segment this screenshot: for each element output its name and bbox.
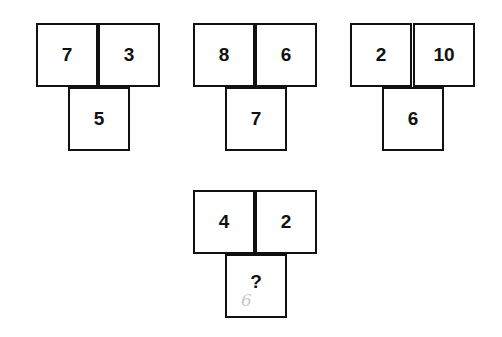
box-top-left: 7 xyxy=(36,23,98,87)
box-top-left: 4 xyxy=(193,190,255,254)
box-bottom: 5 xyxy=(68,87,130,151)
box-top-right: 3 xyxy=(98,23,160,87)
answer-box: ? 6 xyxy=(225,254,287,318)
handwritten-answer: 6 xyxy=(241,290,252,310)
box-top-right: 10 xyxy=(413,23,475,87)
box-top-left: 8 xyxy=(193,23,255,87)
box-top-right: 6 xyxy=(255,23,317,87)
box-top-right: 2 xyxy=(255,190,317,254)
box-bottom: 7 xyxy=(225,87,287,151)
box-bottom: 6 xyxy=(382,87,444,151)
box-top-left: 2 xyxy=(350,23,412,87)
